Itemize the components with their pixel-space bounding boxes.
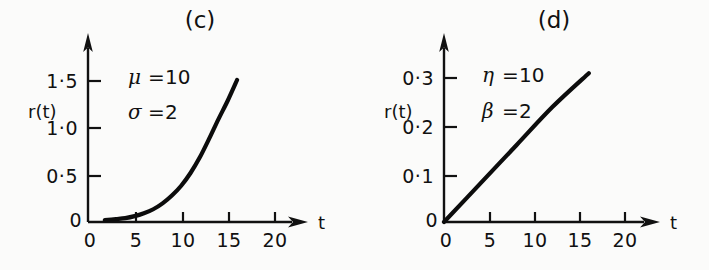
x-tick-label-d-1: 5 bbox=[484, 229, 497, 251]
param-value-c-0: 10 bbox=[165, 65, 190, 89]
x-tick-label-c-3: 15 bbox=[216, 229, 241, 251]
data-curve-d bbox=[444, 73, 589, 222]
y-tick-label-d-2: 0·1 bbox=[402, 165, 434, 187]
y-zero-label-d: 0 bbox=[425, 209, 438, 231]
param-value-d-0: 10 bbox=[519, 63, 544, 87]
param-eq-d-0: = bbox=[502, 63, 519, 87]
x-tick-label-d-2: 10 bbox=[522, 229, 547, 251]
panel-d: 0·3 0·2 0·1 0 0 5 10 15 20 r(t) t (d) η … bbox=[354, 0, 709, 270]
x-tick-label-d-3: 15 bbox=[567, 229, 592, 251]
y-tick-label-c-2: 0·5 bbox=[46, 165, 78, 187]
y-axis-label-d: r(t) bbox=[384, 101, 413, 122]
param-eq-c-0: = bbox=[148, 65, 165, 89]
y-zero-label-c: 0 bbox=[69, 209, 82, 231]
param-value-d-1: 2 bbox=[519, 99, 532, 123]
x-tick-label-c-2: 10 bbox=[170, 229, 195, 251]
figure-container: 1·5 1·0 0·5 0 0 5 10 15 20 r(t) t (c) μ … bbox=[0, 0, 709, 270]
panel-tag-d: (d) bbox=[538, 7, 571, 33]
y-tick-label-d-0: 0·3 bbox=[402, 67, 434, 89]
param-symbol-c-0: μ bbox=[128, 65, 141, 89]
x-tick-label-c-4: 20 bbox=[262, 229, 287, 251]
param-symbol-c-1: σ bbox=[128, 100, 143, 124]
x-tick-label-d-0: 0 bbox=[440, 229, 453, 251]
param-eq-d-1: = bbox=[502, 99, 519, 123]
y-tick-label-c-0: 1·5 bbox=[46, 70, 78, 92]
param-eq-c-1: = bbox=[148, 100, 165, 124]
x-axis-label-d: t bbox=[670, 212, 677, 233]
param-symbol-d-1: β bbox=[481, 99, 494, 123]
param-symbol-d-0: η bbox=[482, 63, 494, 87]
panel-tag-c: (c) bbox=[185, 7, 216, 33]
x-tick-label-c-0: 0 bbox=[84, 229, 97, 251]
x-tick-label-d-4: 20 bbox=[612, 229, 637, 251]
x-axis-label-c: t bbox=[318, 212, 325, 233]
param-value-c-1: 2 bbox=[165, 100, 178, 124]
panel-c: 1·5 1·0 0·5 0 0 5 10 15 20 r(t) t (c) μ … bbox=[0, 0, 355, 270]
x-tick-label-c-1: 5 bbox=[130, 229, 143, 251]
y-axis-label-c: r(t) bbox=[28, 101, 57, 122]
